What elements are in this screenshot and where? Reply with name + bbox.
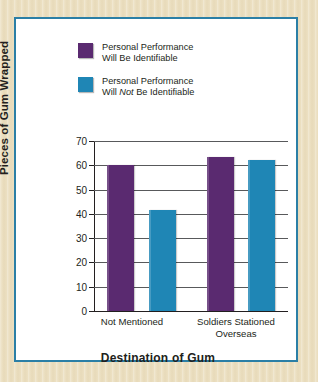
x-tick-label-soldiers-stationed-overseas: Soldiers StationedOverseas: [172, 316, 300, 340]
chart-card: Personal Performance Will Be Identifiabl…: [14, 17, 298, 362]
gridline-70: [94, 141, 288, 142]
legend-label-identifiable-line2: Will Be Identifiable: [102, 53, 178, 63]
y-tick-mark-30: [89, 238, 94, 239]
y-tick-mark-0: [89, 311, 94, 312]
y-tick-mark-40: [89, 214, 94, 215]
legend-item-identifiable: Personal Performance Will Be Identifiabl…: [78, 42, 278, 65]
legend-label-identifiable-line1: Personal Performance: [102, 42, 193, 52]
bar-identifiable-group2: [207, 157, 234, 311]
y-tick-label-30: 30: [76, 233, 87, 244]
plot-area: 010203040506070: [94, 141, 288, 311]
legend-label-not-identifiable-line2-pre: Will: [102, 87, 119, 97]
legend-label-not-identifiable-emphasis: Not: [119, 87, 133, 97]
x-axis-title: Destination of Gum: [16, 351, 300, 365]
y-tick-mark-70: [89, 141, 94, 142]
legend-label-not-identifiable-line2-post: Be Identifiable: [134, 87, 195, 97]
y-tick-mark-20: [89, 262, 94, 263]
legend-label-not-identifiable-line1: Personal Performance: [102, 76, 193, 86]
bar-identifiable-group1: [107, 165, 134, 311]
chart-legend: Personal Performance Will Be Identifiabl…: [78, 42, 278, 110]
figure-mat-frame: Personal Performance Will Be Identifiabl…: [0, 0, 318, 382]
bar-not-identifiable-group2: [248, 160, 275, 311]
legend-swatch-purple-icon: [78, 43, 93, 58]
y-tick-mark-50: [89, 190, 94, 191]
y-tick-label-10: 10: [76, 281, 87, 292]
x-axis-line: [94, 311, 288, 312]
x-tick-label-line: Soldiers Stationed: [172, 316, 300, 328]
y-tick-label-0: 0: [81, 306, 87, 317]
y-axis-title: Pieces of Gum Wrapped: [0, 41, 10, 175]
legend-swatch-blue-icon: [78, 77, 93, 92]
y-tick-mark-60: [89, 165, 94, 166]
y-axis-line: [94, 141, 95, 311]
y-tick-label-50: 50: [76, 184, 87, 195]
x-tick-label-line: Overseas: [172, 328, 300, 340]
legend-item-not-identifiable: Personal Performance Will Not Be Identif…: [78, 76, 278, 99]
y-tick-label-70: 70: [76, 136, 87, 147]
y-tick-label-20: 20: [76, 257, 87, 268]
y-tick-label-60: 60: [76, 160, 87, 171]
bar-not-identifiable-group1: [149, 210, 176, 311]
legend-label-not-identifiable: Personal Performance Will Not Be Identif…: [102, 76, 194, 99]
legend-label-identifiable: Personal Performance Will Be Identifiabl…: [102, 42, 193, 65]
y-tick-mark-10: [89, 287, 94, 288]
y-tick-label-40: 40: [76, 208, 87, 219]
